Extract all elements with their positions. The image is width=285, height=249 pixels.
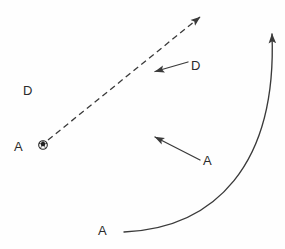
label-attacker-middle: A xyxy=(203,154,212,167)
defender-run-arrow xyxy=(155,62,188,72)
label-defender-upper-right: D xyxy=(191,59,201,72)
pass-path-dashed-arrow xyxy=(48,17,200,140)
label-defender-left: D xyxy=(23,84,33,97)
diagram-svg-layer xyxy=(0,0,285,249)
tactical-diagram-canvas: A D D A A xyxy=(0,0,285,249)
label-attacker-bottom: A xyxy=(98,224,107,237)
label-attacker-with-ball: A xyxy=(14,140,23,153)
attacker-run-middle-arrow xyxy=(155,137,200,160)
soccer-ball-icon xyxy=(39,141,48,150)
